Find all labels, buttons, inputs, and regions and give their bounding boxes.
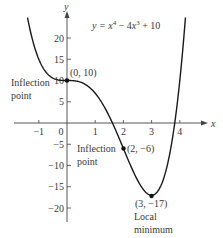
point-label: (3, −17) xyxy=(135,198,167,210)
chart: x y −101234 2015105−5−10−15−20 y = x4 − … xyxy=(0,0,223,238)
x-tick-label: −1 xyxy=(33,126,44,137)
x-tick-label: 2 xyxy=(121,126,126,137)
point-inflection-2: (2, −6) Inflection point xyxy=(77,143,154,167)
point-annotation: minimum xyxy=(134,224,173,235)
y-tick-label: 5 xyxy=(59,96,64,107)
y-tick-label: 20 xyxy=(54,33,64,44)
y-tick-label: −15 xyxy=(48,181,64,192)
y-tick-label: −5 xyxy=(53,139,64,150)
point-label: (2, −6) xyxy=(127,143,154,155)
y-tick-label: −20 xyxy=(48,203,64,214)
y-tick-label: 15 xyxy=(54,54,64,65)
x-tick-label: 0 xyxy=(59,126,64,137)
x-axis-arrow-icon xyxy=(201,121,208,126)
point-annotation: Local xyxy=(134,211,157,222)
x-axis: x xyxy=(14,118,216,129)
x-tick-label: 3 xyxy=(149,126,154,137)
x-tick-label: 4 xyxy=(177,126,182,137)
x-tick-label: 1 xyxy=(93,126,98,137)
point-annotation: point xyxy=(77,156,98,167)
point-local-minimum: (3, −17) Local minimum xyxy=(134,194,173,235)
point-label: (0, 10) xyxy=(70,67,97,79)
point-annotation: Inflection xyxy=(77,143,116,154)
y-tick-label: −10 xyxy=(48,160,64,171)
point-annotation: point xyxy=(11,90,32,101)
equation-label: y = x4 − 4x3 + 10 xyxy=(91,19,160,31)
point-annotation: Inflection xyxy=(11,77,50,88)
y-axis-arrow-icon xyxy=(65,11,70,18)
x-axis-label: x xyxy=(210,118,216,129)
y-axis-label: y xyxy=(63,1,69,12)
